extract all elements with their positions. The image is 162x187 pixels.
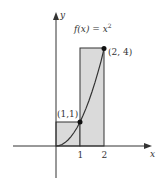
- x-axis-label: x: [150, 149, 155, 159]
- function-label-base: f(x) = x: [73, 24, 108, 34]
- y-axis-arrow-icon: [53, 12, 59, 20]
- point-2-4: [102, 46, 107, 51]
- point-label-2-4: (2, 4): [108, 47, 132, 57]
- riemann-sum-diagram: (1,1) (2, 4) f(x) = x2 y x 1 2: [0, 0, 162, 187]
- tick-label-2: 2: [102, 150, 108, 160]
- tick-label-1: 1: [78, 150, 84, 160]
- function-label: f(x) = x2: [73, 22, 112, 34]
- point-label-1-1: (1,1): [57, 109, 78, 119]
- rectangle-0-1: [56, 122, 80, 146]
- point-1-1: [78, 120, 83, 125]
- function-label-exponent: 2: [108, 22, 112, 29]
- y-axis-label: y: [59, 10, 66, 20]
